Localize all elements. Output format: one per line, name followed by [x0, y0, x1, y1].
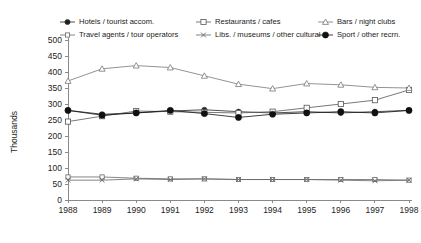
- chart-series: [65, 63, 412, 184]
- legend-item-label: Sport / other recrn.: [337, 30, 400, 39]
- series-3: [66, 175, 411, 182]
- data-point-open-square-small-marker: [339, 177, 343, 181]
- legend-item-label: Restaurants / cafes: [215, 17, 281, 26]
- legend-item[interactable]: Sport / other recrn.: [318, 30, 400, 39]
- data-point-filled-circle-bold-marker: [99, 112, 105, 118]
- x-tick-label: 1995: [297, 205, 316, 215]
- data-point-open-square-marker: [201, 19, 206, 24]
- y-tick-label: 250: [48, 115, 62, 125]
- legend-item[interactable]: Restaurants / cafes: [196, 17, 281, 26]
- x-tick-label: 1997: [365, 205, 384, 215]
- x-tick-label: 1992: [195, 205, 214, 215]
- data-point-open-square-small-marker: [65, 33, 69, 37]
- x-axis-ticks: 1988198919901991199219931994199519961997…: [59, 200, 419, 215]
- y-axis-ticks: 050100150200250300350400450500: [48, 35, 68, 205]
- data-point-filled-circle-bold-marker: [270, 111, 276, 117]
- legend-item[interactable]: Libs. / museums / other cultural: [196, 30, 321, 39]
- x-tick-label: 1994: [263, 205, 282, 215]
- y-tick-label: 500: [48, 35, 62, 45]
- x-tick-label: 1993: [229, 205, 248, 215]
- x-tick-label: 1989: [93, 205, 112, 215]
- legend-item-label: Libs. / museums / other cultural: [215, 30, 321, 39]
- data-point-filled-circle-bold-marker: [372, 110, 378, 116]
- legend-item-label: Travel agents / tour operators: [79, 30, 179, 39]
- data-point-open-square-small-marker: [168, 177, 172, 181]
- data-point-filled-circle-bold-marker: [235, 114, 241, 120]
- y-tick-label: 50: [53, 179, 63, 189]
- series-2: [65, 63, 412, 91]
- legend-item[interactable]: Hotels / tourist accom.: [60, 17, 154, 26]
- x-tick-label: 1998: [400, 205, 419, 215]
- y-tick-label: 100: [48, 163, 62, 173]
- data-point-filled-circle-bold-marker: [201, 111, 207, 117]
- y-tick-label: 200: [48, 131, 62, 141]
- y-tick-label: 450: [48, 51, 62, 61]
- data-point-open-square-small-marker: [134, 176, 138, 180]
- x-tick-label: 1990: [127, 205, 146, 215]
- x-tick-label: 1988: [59, 205, 78, 215]
- chart-container: Hotels / tourist accom.Restaurants / caf…: [0, 0, 421, 243]
- legend-item[interactable]: Travel agents / tour operators: [60, 30, 179, 39]
- chart-legend: Hotels / tourist accom.Restaurants / caf…: [60, 17, 400, 39]
- y-tick-label: 150: [48, 147, 62, 157]
- data-point-filled-circle-bold-marker: [167, 107, 173, 113]
- data-point-filled-circle-bold-marker: [322, 32, 328, 38]
- data-point-filled-circle-bold-marker: [133, 110, 139, 116]
- data-point-filled-circle-bold-marker: [406, 107, 412, 113]
- y-tick-label: 300: [48, 99, 62, 109]
- data-point-open-square-marker: [65, 119, 70, 124]
- x-tick-label: 1991: [161, 205, 180, 215]
- data-point-filled-circle-marker: [65, 19, 70, 24]
- legend-item-label: Bars / night clubs: [337, 17, 395, 26]
- data-point-filled-circle-bold-marker: [65, 107, 71, 113]
- legend-item[interactable]: Bars / night clubs: [318, 17, 395, 26]
- data-point-open-triangle-marker: [65, 78, 71, 83]
- x-tick-label: 1996: [331, 205, 350, 215]
- data-point-open-triangle-marker: [133, 63, 139, 68]
- line-chart: Hotels / tourist accom.Restaurants / caf…: [0, 0, 421, 243]
- legend-item-label: Hotels / tourist accom.: [79, 17, 154, 26]
- data-point-open-square-marker: [338, 101, 343, 106]
- data-point-open-square-marker: [372, 98, 377, 103]
- data-point-filled-circle-bold-marker: [338, 109, 344, 115]
- data-point-filled-circle-bold-marker: [304, 110, 310, 116]
- y-tick-label: 0: [57, 195, 62, 205]
- y-axis-title: Thousands: [9, 111, 19, 153]
- y-tick-label: 400: [48, 67, 62, 77]
- y-tick-label: 350: [48, 83, 62, 93]
